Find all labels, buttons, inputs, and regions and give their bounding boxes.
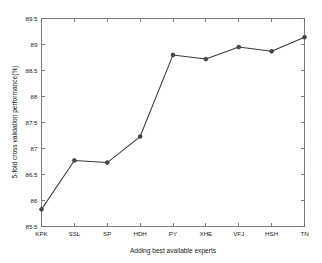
x-tick-label-sp: SP — [103, 230, 111, 237]
y-tick-label: 89.5 — [25, 15, 38, 22]
x-axis-tick-labels: KPKSSLSPHDHPYXHEVFJHSHTN — [35, 230, 308, 237]
y-tick-label: 86.5 — [25, 171, 38, 178]
data-point-ssl — [72, 159, 76, 163]
y-axis-tick-labels: 85.58686.58787.58888.58989.5 — [25, 15, 38, 230]
data-point-hsh — [270, 49, 274, 53]
data-point-vfj — [237, 45, 241, 49]
y-axis-title: 5-fold cross validation performance(%) — [11, 66, 19, 179]
y-tick-label: 87 — [31, 145, 38, 152]
x-axis-ticks — [42, 19, 305, 227]
x-tick-label-xhe: XHE — [200, 230, 213, 237]
x-tick-label-hdh: HDH — [133, 230, 146, 237]
data-point-xhe — [204, 57, 208, 61]
data-point-py — [171, 53, 175, 57]
plot-frame — [42, 19, 305, 227]
data-point-hdh — [138, 135, 142, 139]
y-tick-label: 88.5 — [25, 67, 38, 74]
y-tick-label: 89 — [31, 41, 38, 48]
data-series-line — [42, 37, 305, 209]
data-series-markers — [40, 35, 307, 211]
y-tick-label: 88 — [31, 93, 38, 100]
data-point-sp — [105, 161, 109, 165]
x-axis-title: Adding best available experts — [130, 247, 217, 255]
axes-frame — [42, 19, 305, 227]
y-tick-label: 87.5 — [25, 119, 38, 126]
x-tick-label-tn: TN — [300, 230, 308, 237]
x-tick-label-ssl: SSL — [69, 230, 81, 237]
x-tick-label-py: PY — [169, 230, 177, 237]
chart-figure: 85.58686.58787.58888.58989.5 KPKSSLSPHDH… — [0, 0, 322, 263]
data-point-tn — [303, 35, 307, 39]
x-tick-label-hsh: HSH — [265, 230, 278, 237]
y-tick-label: 86 — [31, 197, 38, 204]
data-point-kpk — [40, 207, 44, 211]
x-tick-label-vfj: VFJ — [233, 230, 244, 237]
x-tick-label-kpk: KPK — [35, 230, 48, 237]
y-axis-ticks — [42, 19, 305, 227]
line-chart: 85.58686.58787.58888.58989.5 KPKSSLSPHDH… — [0, 0, 322, 263]
